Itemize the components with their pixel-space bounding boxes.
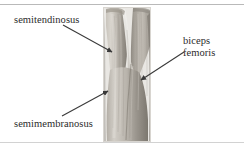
anatomy-figure: semitendinosus semimembranosus biceps fe… [0, 0, 244, 151]
label-semitendinosus: semitendinosus [14, 14, 79, 26]
label-biceps-femoris-line2: femoris [183, 47, 215, 59]
label-biceps-femoris-line1: biceps [183, 35, 210, 46]
label-semimembranosus: semimembranosus [14, 118, 93, 130]
label-biceps-femoris: biceps femoris [183, 35, 215, 58]
